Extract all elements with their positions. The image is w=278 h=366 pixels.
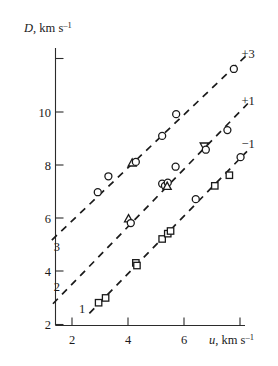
data-point-3-0: [94, 189, 101, 196]
annotation-plus-3: +3: [241, 47, 254, 61]
data-point-1-10: [237, 154, 244, 161]
data-markers: [94, 65, 244, 305]
annotation-minus-1: −1: [241, 137, 254, 151]
x-tick-6: 6: [181, 333, 187, 347]
curve-label-1: 1: [79, 302, 85, 316]
y-tick-2: 2: [45, 318, 51, 332]
data-point-2-6: [172, 163, 179, 170]
data-point-1-0: [95, 300, 101, 306]
y-tick-8: 8: [45, 159, 51, 173]
fit-line-2: [53, 104, 248, 304]
x-tick-2: 2: [69, 333, 75, 347]
x-tick-4: 4: [125, 333, 132, 347]
data-point-1-9: [226, 172, 232, 178]
data-point-1-3: [134, 262, 140, 268]
y-axis-tick-labels: 10 8 6 4 2: [39, 106, 52, 332]
x-axis-ticks: [72, 318, 240, 326]
data-point-3-1: [105, 173, 112, 180]
x-axis-tick-labels: 2 4 6: [69, 333, 187, 347]
x-axis-title: u, km s–1: [209, 332, 254, 347]
data-point-3-6: [230, 65, 237, 72]
data-point-2-9: [224, 127, 231, 134]
curve-label-2: 2: [54, 280, 60, 294]
curve-label-3: 3: [54, 240, 60, 254]
data-point-2-8: [202, 146, 209, 153]
fit-line-3: [52, 56, 246, 240]
y-tick-4: 4: [45, 265, 52, 279]
y-tick-10: 10: [39, 106, 52, 120]
data-point-2-1: [127, 220, 134, 227]
data-point-1-6: [167, 228, 173, 234]
data-point-1-7: [192, 196, 199, 203]
data-point-3-4: [159, 132, 166, 139]
chart-annotations: +3+1−1321: [54, 47, 255, 316]
data-point-1-1: [102, 295, 108, 301]
scatter-chart: D, km s–1 10 8 6 4 2 2 4 6 u, km s–1 +3+…: [0, 0, 278, 366]
y-tick-6: 6: [45, 212, 51, 226]
data-point-3-3: [132, 158, 139, 165]
annotation-plus-1: +1: [241, 94, 254, 108]
data-point-1-8: [212, 183, 218, 189]
y-axis-title: D, km s–1: [23, 20, 72, 35]
data-point-3-5: [173, 111, 180, 118]
